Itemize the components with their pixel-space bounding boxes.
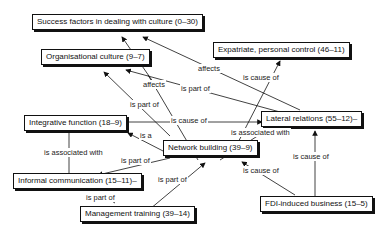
node-informal-communication: Informal communication (15–11)– — [13, 173, 142, 189]
node-organisational-culture: Organisational culture (9–7) — [41, 49, 150, 65]
edge-label: is part of — [120, 156, 151, 165]
edge-label: is a — [139, 131, 153, 140]
node-management-training: Management training (39–14) — [80, 206, 195, 222]
edge-label: is cause of — [292, 152, 330, 161]
node-expatriate-control: Expatriate, personal control (46–11) — [213, 42, 350, 58]
edge-label: is cause of — [242, 73, 280, 82]
edge-label: is part of — [180, 84, 211, 93]
edge-label: is part of — [157, 175, 188, 184]
edge-label: affects — [197, 64, 221, 73]
node-network-building: Network building (39–9) — [163, 140, 258, 156]
edge-label: is cause of — [242, 166, 280, 175]
node-integrative-function: Integrative function (18–9) — [24, 115, 127, 131]
edge-label: is part of — [85, 193, 116, 202]
node-fdi-induced-business: FDI-induced business (15–5) — [260, 196, 373, 212]
edge-label: is part of — [129, 100, 160, 109]
edge-label: affects — [142, 80, 166, 89]
node-lateral-relations: Lateral relations (55–12)– — [261, 111, 362, 127]
edge-label: is associated with — [230, 128, 291, 137]
edge-label: is associated with — [43, 148, 104, 157]
edge-label: is cause of — [170, 116, 208, 125]
node-success-factors: Success factors in dealing with culture … — [32, 14, 203, 30]
